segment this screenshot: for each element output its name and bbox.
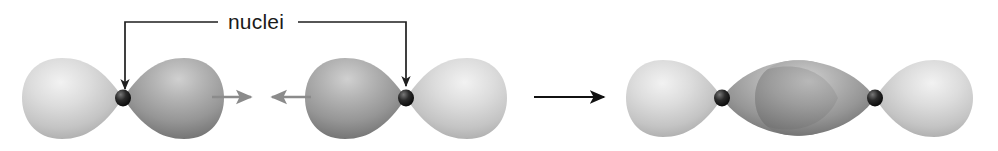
orbital-2-nucleus	[398, 90, 414, 107]
bonded-nucleus-right	[867, 90, 883, 107]
orbital-1-nucleus	[115, 90, 131, 107]
orbital-1-lobe-left	[22, 58, 123, 139]
bonded-outer-lobe-left	[626, 60, 722, 137]
orbital-3-bonded-pair	[626, 60, 973, 137]
orbital-1-lobe-right	[123, 58, 224, 139]
bonded-nucleus-left	[714, 90, 730, 107]
orbital-overlap-figure: nuclei	[0, 0, 998, 151]
nuclei-label: nuclei	[228, 10, 284, 33]
bonded-outer-lobe-right	[875, 60, 973, 137]
figure-canvas: nuclei	[0, 0, 998, 151]
orbital-2-lobe-right	[406, 58, 507, 139]
orbital-1	[22, 58, 224, 139]
orbital-2-lobe-left	[305, 58, 406, 139]
